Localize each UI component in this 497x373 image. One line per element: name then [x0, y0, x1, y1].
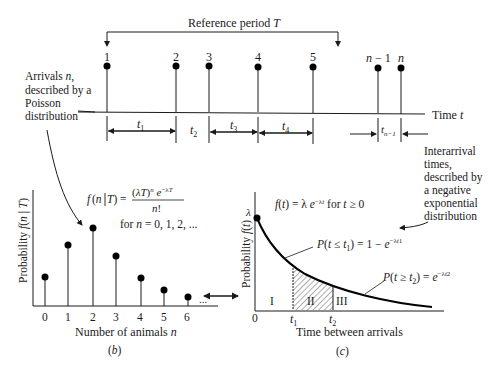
svg-text:tn−1: tn−1	[381, 123, 396, 138]
svg-text:described by a: described by a	[25, 84, 91, 97]
svg-text:2: 2	[173, 50, 179, 64]
exponential-note: Interarrival times, described by a negat…	[400, 145, 483, 228]
poisson-formula: f (n T) = (λT)n e−λT n! for n = 0, 1, 2,…	[87, 186, 198, 231]
svg-text:Poisson: Poisson	[25, 97, 61, 109]
svg-text:t3: t3	[230, 118, 237, 134]
svg-text:n − 1: n − 1	[366, 51, 391, 65]
svg-text:exponential: exponential	[424, 197, 478, 210]
survival-annotation: P(t ≥ t2) = e−λt2	[382, 270, 451, 286]
reference-bracket	[107, 32, 338, 45]
svg-text:n!: n!	[152, 202, 161, 214]
time-axis	[78, 112, 425, 114]
lambda-label: λ	[245, 206, 251, 218]
b-caption: (b)	[108, 344, 122, 357]
svg-text:described by: described by	[424, 171, 483, 184]
svg-text:a negative: a negative	[424, 184, 471, 197]
svg-text:distribution: distribution	[424, 210, 477, 222]
arrow-down-icon	[104, 41, 110, 47]
time-axis-label: Time t	[432, 108, 464, 122]
svg-text:t1: t1	[137, 117, 144, 133]
b-ellipsis: ...	[199, 293, 208, 305]
exponential-curve	[257, 218, 432, 307]
svg-text:T) =: T) =	[107, 193, 127, 206]
svg-text:n: n	[398, 51, 404, 65]
svg-text:t4: t4	[282, 119, 289, 135]
poisson-note: Arrivals n, described by a Poisson distr…	[25, 70, 95, 225]
c-caption: (c)	[336, 345, 349, 358]
svg-text:(λT)n e−λT: (λT)n e−λT	[132, 186, 174, 199]
svg-text:3: 3	[113, 311, 119, 323]
svg-text:6: 6	[184, 311, 190, 323]
interval-markers	[107, 116, 428, 144]
b-stems	[42, 225, 192, 307]
svg-text:distribution: distribution	[25, 110, 78, 122]
c-y-label: Probability f(t)	[240, 220, 253, 288]
svg-text:0: 0	[252, 312, 258, 324]
b-x-label: Number of animals n	[75, 325, 177, 339]
cdf-annotation: P(t ≤ t1) = 1 − e−λt1	[316, 237, 403, 253]
svg-text:Arrivals n,: Arrivals n,	[25, 70, 74, 83]
arrival-stems: 1 2 3 4 5 n − 1 n	[104, 50, 405, 114]
svg-text:Interarrival: Interarrival	[424, 145, 476, 157]
svg-text:for n = 0, 1, 2, ...: for n = 0, 1, 2, ...	[120, 218, 198, 231]
diagram-canvas: Reference period T Time t 1 2 3 4 5 n − …	[0, 0, 497, 373]
region-ii-label: II	[307, 295, 315, 307]
svg-text:1: 1	[65, 311, 71, 323]
c-x-label: Time between arrivals	[296, 325, 403, 339]
arrow-down-icon	[335, 41, 341, 47]
exponential-chart: Probability f(t) λ I II III 0 t1 t2 Time…	[240, 192, 451, 358]
svg-text:times,: times,	[424, 158, 452, 171]
svg-text:t2: t2	[190, 123, 197, 139]
reference-period-label: Reference period T	[188, 16, 281, 30]
svg-text:(n: (n	[92, 193, 102, 206]
svg-text:4: 4	[137, 311, 143, 323]
svg-text:5: 5	[161, 311, 167, 323]
b-x-ticks: 0 1 2 3 4 5 6	[42, 311, 190, 323]
svg-text:4: 4	[255, 50, 261, 64]
svg-text:0: 0	[42, 311, 48, 323]
svg-text:3: 3	[206, 50, 212, 64]
region-i-label: I	[270, 295, 274, 307]
exponential-formula: f(t) = λ e−λt for t ≥ 0	[275, 198, 365, 211]
region-iii-label: III	[336, 295, 348, 307]
poisson-chart: Probability f(n | T) ... 0 1 2 3 4 5 6 N…	[17, 186, 218, 357]
svg-text:5: 5	[310, 50, 316, 64]
b-y-label: Probability f(n | T)	[17, 198, 30, 283]
svg-text:2: 2	[90, 311, 96, 323]
svg-text:1: 1	[104, 50, 110, 64]
